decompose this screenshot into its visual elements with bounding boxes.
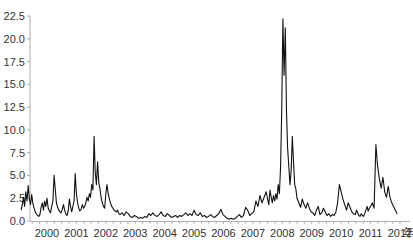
y-tick-label: 22.5 [4,10,25,22]
x-tick-label: 2002 [94,227,118,239]
y-tick-label: 12.5 [4,101,25,113]
line-chart: 0.02.55.07.510.012.515.017.520.022.5 200… [0,0,413,244]
x-tick-label: 2004 [152,227,176,239]
x-tick-label: 2005 [182,227,206,239]
x-tick-label: 2008 [270,227,294,239]
y-tick-label: 10.0 [4,124,25,136]
x-unit-label: 年 [403,226,413,239]
y-tick-label: 5.0 [10,169,25,181]
x-tick-label: 2000 [35,227,59,239]
y-tick-label: 20.0 [4,33,25,45]
y-tick-label: 0.0 [10,215,25,227]
x-tick-label: 2011 [359,227,383,239]
x-tick-label: 2001 [64,227,88,239]
x-tick-label: 2009 [300,227,324,239]
x-tick-label: 2003 [123,227,147,239]
y-tick-label: 17.5 [4,56,25,68]
y-tick-label: 7.5 [10,147,25,159]
x-tick-label: 2007 [241,227,265,239]
x-axis: 2000200120022003200420052006200720082009… [30,222,413,240]
y-tick-label: 15.0 [4,78,25,90]
x-tick-label: 2006 [211,227,235,239]
x-tick-label: 2010 [329,227,353,239]
data-line [21,19,397,220]
